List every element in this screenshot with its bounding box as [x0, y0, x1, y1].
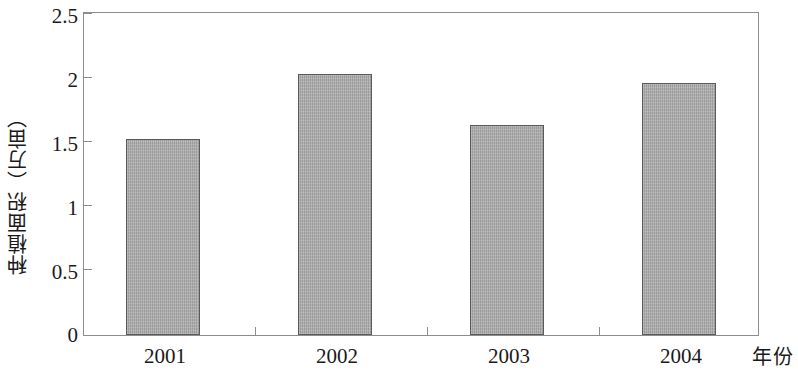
bar-2004	[642, 83, 716, 335]
y-tick-label-2-5: 2.5	[32, 6, 78, 27]
bar-2003	[470, 125, 544, 335]
x-tick-mark-3	[599, 327, 600, 335]
y-axis-tick-labels: 2.5 2 1.5 1 0.5 0	[30, 0, 78, 373]
x-axis-title: 年份	[752, 346, 794, 368]
y-axis-title: 种植面积（万亩）	[2, 76, 32, 306]
bar-chart: 种植面积（万亩） 2.5 2 1.5 1 0.5 0 2001 2002 200…	[0, 0, 798, 373]
x-tick-label-2003: 2003	[459, 345, 559, 367]
y-tick-label-0-5: 0.5	[32, 262, 78, 283]
y-tick-label-1: 1	[32, 198, 78, 219]
x-tick-mark-2	[427, 327, 428, 335]
y-tick-mark-2-5	[84, 13, 92, 14]
y-tick-label-2: 2	[32, 70, 78, 91]
bar-2002	[298, 74, 372, 335]
plot-area	[83, 12, 759, 336]
bar-2001	[126, 139, 200, 335]
x-tick-label-2001: 2001	[115, 345, 215, 367]
x-tick-label-2002: 2002	[287, 345, 387, 367]
y-tick-mark-1-5	[84, 141, 92, 142]
y-tick-mark-1	[84, 205, 92, 206]
y-tick-mark-2	[84, 77, 92, 78]
y-tick-label-1-5: 1.5	[32, 134, 78, 155]
y-tick-label-0: 0	[32, 325, 78, 346]
x-tick-label-2004: 2004	[631, 345, 731, 367]
x-tick-mark-1	[255, 327, 256, 335]
y-tick-mark-0-5	[84, 269, 92, 270]
y-axis-title-text: 种植面积（万亩）	[3, 107, 32, 275]
